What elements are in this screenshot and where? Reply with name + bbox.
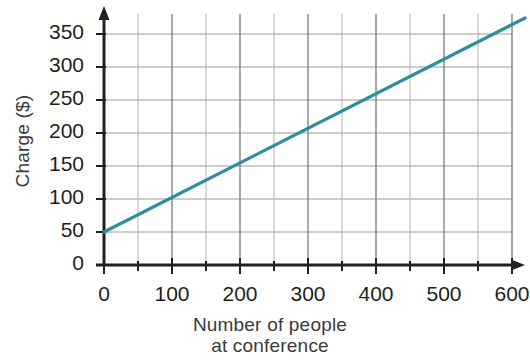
- ytick-label-0: 0: [26, 251, 84, 275]
- ytick-label-100: 100: [26, 185, 84, 209]
- ytick-label-150: 150: [26, 152, 84, 176]
- ytick-label-350: 350: [26, 20, 84, 44]
- ytick-label-50: 50: [26, 218, 84, 242]
- x-axis-title: Number of people at conference: [110, 314, 430, 357]
- xtick-label-100: 100: [142, 282, 202, 306]
- ytick-label-200: 200: [26, 119, 84, 143]
- ytick-label-300: 300: [26, 53, 84, 77]
- x-axis-title-line1: Number of people: [193, 314, 347, 335]
- y-axis: [99, 6, 110, 265]
- xtick-label-400: 400: [346, 282, 406, 306]
- x-axis-title-line2: at conference: [211, 335, 329, 356]
- y-axis-arrowhead: [99, 6, 110, 20]
- xtick-label-0: 0: [74, 282, 134, 306]
- data-line-charge: [104, 18, 525, 232]
- xtick-label-500: 500: [414, 282, 474, 306]
- ytick-label-250: 250: [26, 86, 84, 110]
- xtick-label-600: 600: [482, 282, 530, 306]
- xtick-label-200: 200: [210, 282, 270, 306]
- xtick-label-300: 300: [278, 282, 338, 306]
- x-axis-arrowhead: [511, 260, 525, 271]
- line-chart: 350 300 250 200 150 100 50 0 0 100 200 3…: [0, 0, 530, 364]
- x-axis: [96, 260, 525, 271]
- y-axis-title: Charge ($): [12, 66, 34, 216]
